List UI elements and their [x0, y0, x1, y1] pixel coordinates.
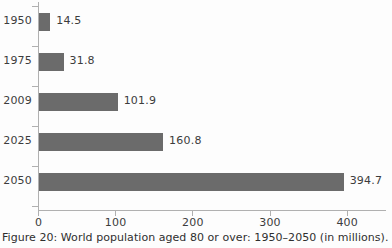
category-label: 1975 [0, 54, 32, 67]
y-axis-tick [32, 206, 38, 207]
bar [39, 13, 50, 31]
x-axis-tick-label: 200 [182, 216, 204, 229]
x-axis-line [38, 210, 386, 211]
x-axis-tick-label: 400 [336, 216, 358, 229]
x-axis-tick-label: 100 [105, 216, 127, 229]
bar-row: 2050394.7 [0, 162, 392, 202]
category-label: 2025 [0, 134, 32, 147]
plot-area: 0100200300400 195014.5197531.82009101.92… [0, 0, 392, 222]
bar [39, 53, 64, 71]
bar [39, 133, 163, 151]
bar [39, 93, 118, 111]
x-axis-tick-label: 0 [35, 216, 42, 229]
bar-value-label: 394.7 [350, 174, 383, 187]
x-axis-tick-label: 300 [259, 216, 281, 229]
bar-row: 2025160.8 [0, 122, 392, 162]
bar-row: 2009101.9 [0, 82, 392, 122]
bar [39, 173, 344, 191]
category-label: 1950 [0, 14, 32, 27]
bar-value-label: 14.5 [56, 14, 81, 27]
bar-value-label: 101.9 [124, 94, 157, 107]
bar-value-label: 160.8 [169, 134, 202, 147]
figure-bar-chart: 0100200300400 195014.5197531.82009101.92… [0, 0, 392, 248]
bar-row: 195014.5 [0, 2, 392, 42]
bar-row: 197531.8 [0, 42, 392, 82]
category-label: 2050 [0, 174, 32, 187]
figure-caption: Figure 20: World population aged 80 or o… [2, 231, 390, 244]
category-label: 2009 [0, 94, 32, 107]
bar-value-label: 31.8 [70, 54, 95, 67]
